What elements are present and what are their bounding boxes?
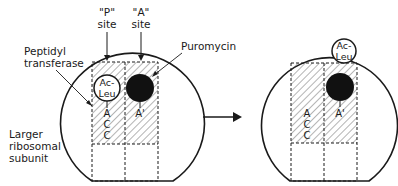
ribosome-before: Ac- Leu A C C A' "P" site "A" site Pepti…	[9, 6, 236, 181]
p-trna-base-2: C	[104, 119, 111, 130]
subunit-label-2: ribosomal	[9, 140, 61, 152]
a-site-arrow-icon	[138, 55, 144, 61]
puromycin-circle	[126, 74, 154, 102]
p-site-label-1: "P"	[99, 6, 115, 18]
ac-leu-released-label-2: Leu	[336, 51, 353, 62]
a-trna-label: A'	[135, 108, 145, 119]
a-trna-label: A'	[335, 108, 345, 119]
puromycin-label: Puromycin	[181, 40, 236, 52]
p-trna-base-3: C	[304, 130, 311, 141]
puromycin-circle	[326, 73, 354, 101]
p-trna-base-2: C	[304, 119, 311, 130]
p-trna-base-1: A	[304, 108, 311, 119]
subunit-label-1: Larger	[9, 128, 44, 140]
a-site-label-1: "A"	[133, 6, 150, 18]
ac-leu-label-1: Ac-	[100, 77, 115, 88]
p-trna-base-3: C	[104, 130, 111, 141]
ribosome-after: Ac- Leu A' A C C	[262, 39, 398, 181]
reaction-arrow-icon	[203, 112, 242, 122]
ac-leu-label-2: Leu	[99, 88, 116, 99]
peptidyl-label-2: transferase	[24, 57, 84, 69]
p-trna-base-1: A	[104, 108, 111, 119]
subunit-label-3: subunit	[9, 152, 48, 164]
p-site-label-2: site	[98, 18, 117, 30]
ac-leu-released-label-1: Ac-	[337, 40, 352, 51]
ribosome-diagram: Ac- Leu A C C A' "P" site "A" site Pepti…	[0, 0, 398, 186]
peptidyl-label-1: Peptidyl	[24, 45, 66, 57]
a-site-label-2: site	[132, 18, 151, 30]
